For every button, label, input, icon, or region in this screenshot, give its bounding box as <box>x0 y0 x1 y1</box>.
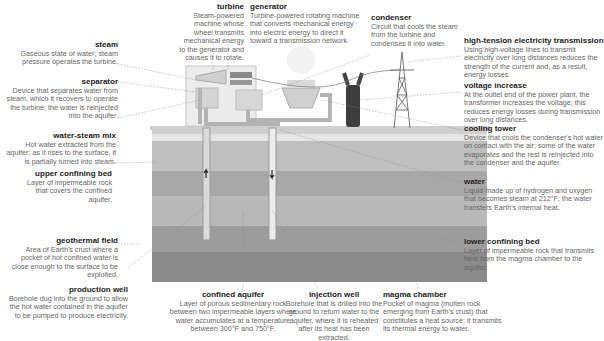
generator <box>230 72 252 78</box>
label-confined-aquifer: confined aquifer Layer of porous sedimen… <box>168 290 298 334</box>
label-magma-chamber: magma chamber Pocket of magma (molten ro… <box>383 290 505 334</box>
aquifer-layer <box>152 196 487 226</box>
label-water-steam-mix: water-steam mix Hot water extracted from… <box>6 131 116 166</box>
condenser <box>236 90 262 110</box>
label-high-tension-transmission: high-tension electricity transmission Us… <box>464 36 604 80</box>
injection-well <box>269 128 276 240</box>
transformer <box>344 73 362 127</box>
magma-layer <box>152 252 487 282</box>
label-steam: steam Gaseous state of water; steam pres… <box>20 40 118 67</box>
label-generator: generator Turbine-powered rotating machi… <box>250 2 360 46</box>
label-geothermal-field: geothermal field Area of Earth's crust w… <box>8 236 118 280</box>
label-production-well: production well Borehole dug into the gr… <box>8 285 128 320</box>
label-turbine: turbine Steam-powered machine whose whee… <box>176 2 244 63</box>
label-water: water Liquid made up of hydrogen and oxy… <box>464 177 604 212</box>
label-separator: separator Device that separates water fr… <box>6 77 118 121</box>
label-condenser: condenser Circuit that cools the steam f… <box>371 13 461 48</box>
label-voltage-increase: voltage increase At the outlet end of th… <box>464 81 604 125</box>
power-line <box>252 70 400 87</box>
label-lower-confining-bed: lower confining bed Layer of impermeable… <box>464 237 604 272</box>
production-well <box>203 128 210 240</box>
lower-confining-layer <box>152 226 487 252</box>
transmission-pylon <box>390 52 414 128</box>
label-upper-confining-bed: upper confining bed Layer of impermeable… <box>18 169 112 204</box>
label-cooling-tower: cooling tower Device that cools the cond… <box>464 124 604 168</box>
upper-confining-layer <box>152 171 487 196</box>
ground-layers <box>152 128 487 282</box>
label-injection-well: injection well Borehole that is drilled … <box>284 290 384 341</box>
cooling-tower <box>282 88 320 108</box>
